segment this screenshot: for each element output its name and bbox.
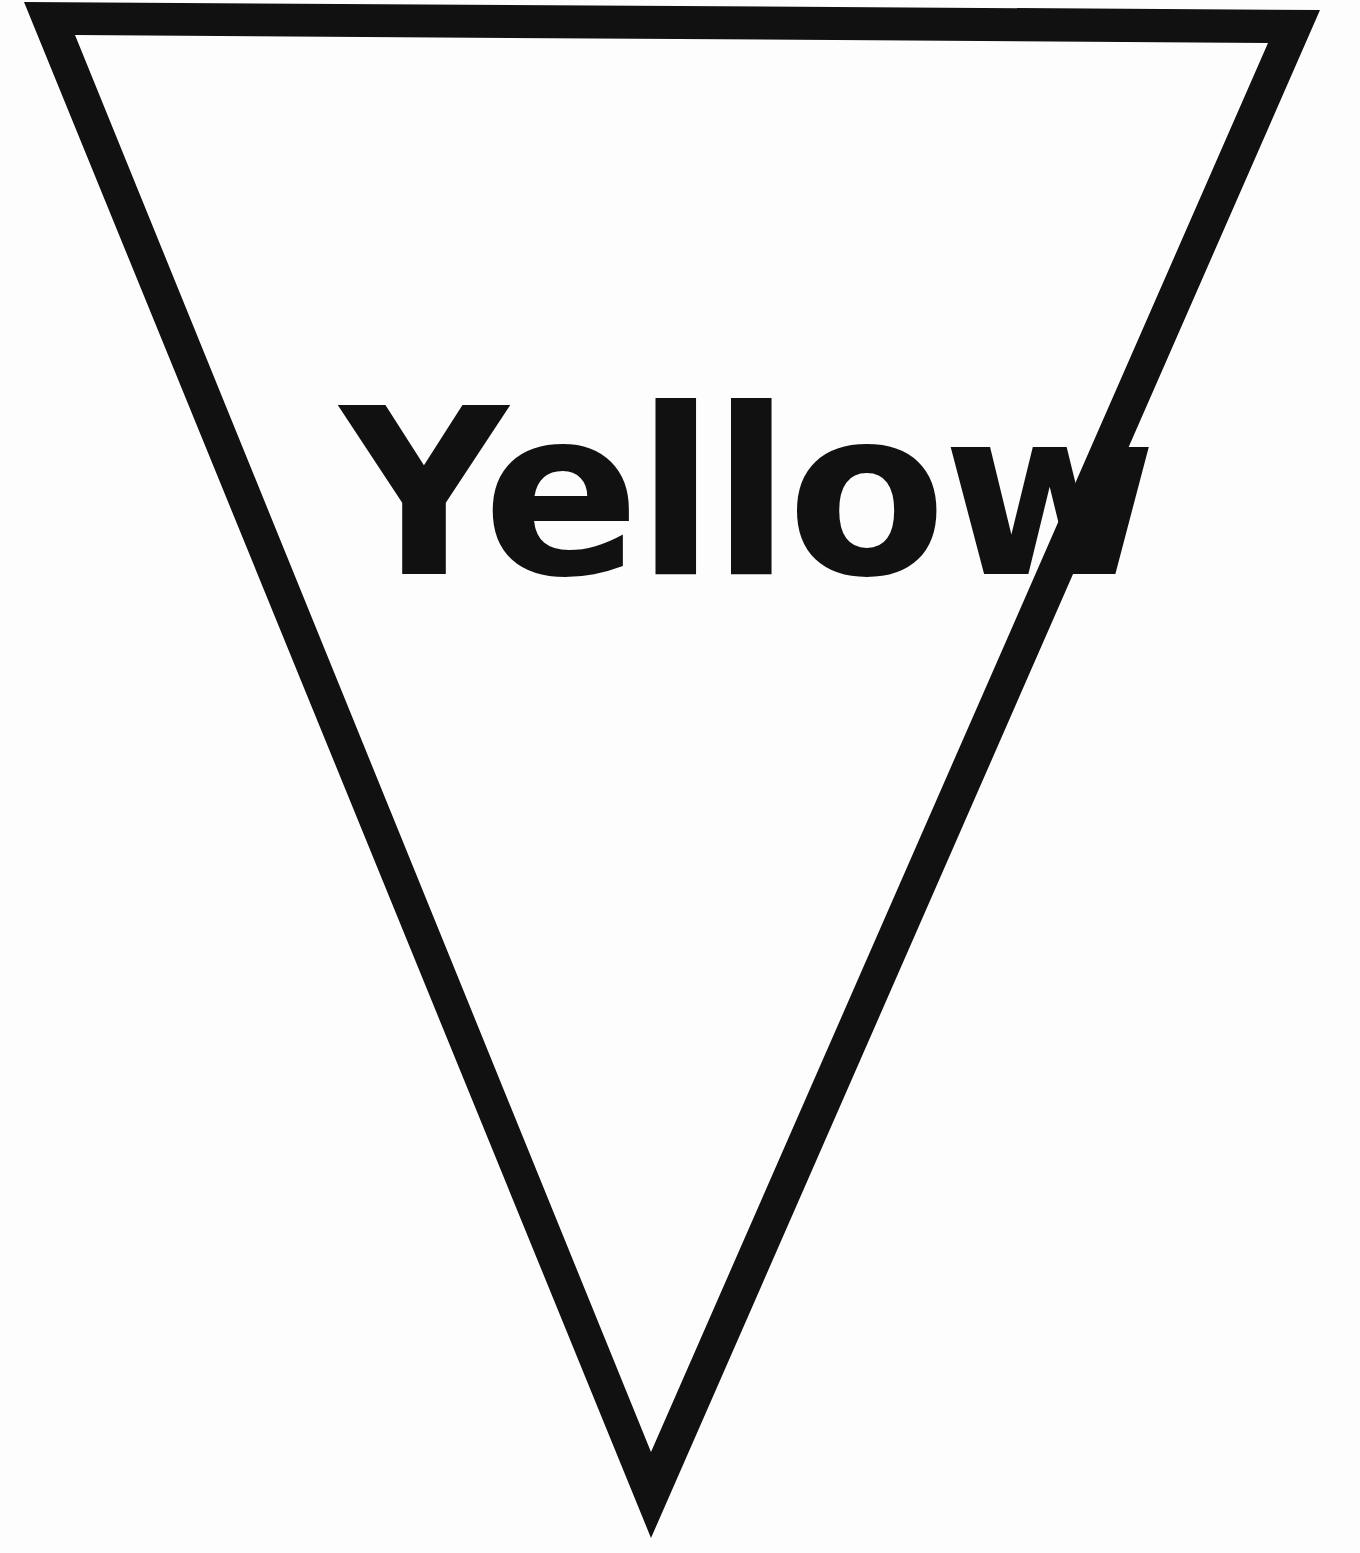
triangle-border <box>24 2 1320 1538</box>
pennant-triangle-outline <box>0 0 1360 1553</box>
pennant-label: Yellow <box>340 378 1000 610</box>
